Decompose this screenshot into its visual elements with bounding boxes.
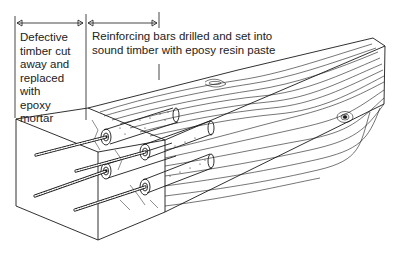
- rebar-3: [35, 171, 106, 196]
- wood-grain-side: [165, 82, 384, 206]
- defective-zone-label: Defective timber cut away and replaced w…: [20, 31, 84, 126]
- dimension-arrow-reinforcing: [88, 20, 157, 26]
- rebar-4: [75, 187, 145, 210]
- rebar-1: [36, 137, 106, 155]
- reinforcing-bars: [35, 137, 145, 210]
- dimension-arrow-defective: [17, 20, 83, 26]
- knot-icon: [337, 112, 353, 123]
- reinforcing-zone-label: Reinforcing bars drilled and set into so…: [92, 30, 342, 57]
